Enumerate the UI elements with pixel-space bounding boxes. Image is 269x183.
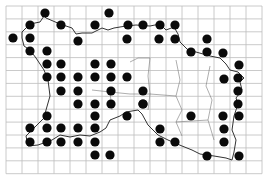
record-dot: [73, 72, 82, 81]
record-dot: [186, 111, 195, 120]
record-dot: [202, 151, 211, 160]
record-dot: [56, 137, 65, 146]
record-dot: [73, 137, 82, 146]
record-dot: [155, 20, 164, 29]
record-dot: [234, 60, 243, 69]
grid-lines: [6, 6, 262, 174]
record-dot: [155, 137, 164, 146]
record-dot: [90, 150, 99, 159]
record-dot: [122, 72, 131, 81]
distribution-map: [0, 0, 269, 183]
record-dot: [106, 86, 115, 95]
record-dot: [90, 20, 99, 29]
record-dot: [25, 33, 34, 42]
record-dot: [90, 137, 99, 146]
record-dot: [170, 34, 179, 43]
record-dot: [122, 111, 131, 120]
record-dots: [8, 8, 243, 160]
record-dot: [73, 36, 82, 45]
record-dot: [218, 111, 227, 120]
record-dot: [123, 20, 132, 29]
record-dot: [8, 33, 17, 42]
record-dot: [202, 47, 211, 56]
record-dot: [90, 99, 99, 108]
record-dot: [186, 47, 195, 56]
record-dot: [25, 20, 34, 29]
record-dot: [56, 123, 65, 132]
record-dot: [138, 86, 147, 95]
record-dot: [73, 123, 82, 132]
record-dot: [40, 8, 49, 17]
record-dot: [219, 124, 228, 133]
record-dot: [56, 86, 65, 95]
record-dot: [234, 151, 243, 160]
record-dot: [42, 137, 51, 146]
record-dot: [219, 137, 228, 146]
record-dot: [106, 59, 115, 68]
record-dot: [42, 111, 51, 120]
record-dot: [42, 123, 51, 132]
record-dot: [233, 99, 242, 108]
record-dot: [25, 137, 34, 146]
record-dot: [233, 86, 242, 95]
record-dot: [73, 99, 82, 108]
record-dot: [170, 20, 179, 29]
record-dot: [234, 111, 243, 120]
record-dot: [170, 137, 179, 146]
record-dot: [138, 20, 147, 29]
record-dot: [138, 99, 147, 108]
record-dot: [90, 59, 99, 68]
record-dot: [25, 46, 34, 55]
record-dot: [122, 34, 131, 43]
record-dot: [105, 150, 114, 159]
record-dot: [202, 34, 211, 43]
record-dot: [90, 123, 99, 132]
record-dot: [42, 59, 51, 68]
record-dot: [90, 72, 99, 81]
record-dot: [25, 123, 34, 132]
record-dot: [104, 8, 113, 17]
record-dot: [106, 99, 115, 108]
record-dot: [154, 34, 163, 43]
record-dot: [218, 48, 227, 57]
record-dot: [73, 86, 82, 95]
record-dot: [42, 72, 51, 81]
record-dot: [90, 111, 99, 120]
record-dot: [106, 72, 115, 81]
record-dot: [42, 46, 51, 55]
record-dot: [56, 72, 65, 81]
record-dot: [219, 74, 228, 83]
record-dot: [56, 20, 65, 29]
record-dot: [233, 73, 242, 82]
record-dot: [56, 59, 65, 68]
record-dot: [155, 124, 164, 133]
